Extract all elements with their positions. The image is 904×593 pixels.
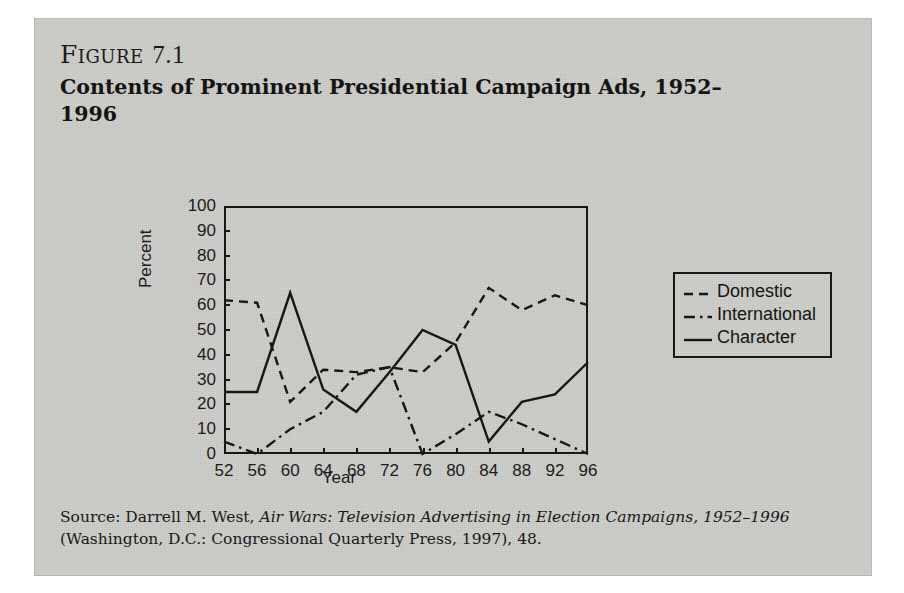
source-prefix: Source: Darrell M. West, xyxy=(60,508,259,526)
source-note: Source: Darrell M. West, Air Wars: Telev… xyxy=(60,506,850,550)
x-tick-label: 92 xyxy=(545,461,564,481)
figure-page: Figure 7.1 Contents of Prominent Preside… xyxy=(34,18,872,576)
x-tick-label: 52 xyxy=(215,461,234,481)
y-axis-label: Percent xyxy=(136,229,156,288)
x-tick-label: 88 xyxy=(512,461,531,481)
x-tick-label: 84 xyxy=(479,461,498,481)
y-tick-label: 60 xyxy=(197,295,224,315)
y-tick-label: 20 xyxy=(197,394,224,414)
x-tick-label: 76 xyxy=(413,461,432,481)
y-tick-label: 30 xyxy=(197,370,224,390)
legend-label: Character xyxy=(717,327,796,348)
figure-number: 7.1 xyxy=(152,41,185,68)
legend-label: International xyxy=(717,304,816,325)
figure-label-word: Figure xyxy=(60,40,144,69)
y-tick-label: 50 xyxy=(197,320,224,340)
source-suffix: (Washington, D.C.: Congressional Quarter… xyxy=(60,530,542,548)
source-book-title: Air Wars: Television Advertising in Elec… xyxy=(259,508,789,526)
legend-item-character[interactable]: Character xyxy=(683,326,816,349)
x-axis-label: Year xyxy=(144,468,534,488)
y-tick-label: 70 xyxy=(197,270,224,290)
series-lines xyxy=(224,206,588,454)
figure-label: Figure 7.1 xyxy=(60,40,185,69)
x-tick-label: 60 xyxy=(281,461,300,481)
plot-area: 0102030405060708090100 52566064687276808… xyxy=(224,206,588,454)
y-tick-label: 10 xyxy=(197,419,224,439)
x-tick-label: 56 xyxy=(248,461,267,481)
legend-swatch-solid-icon xyxy=(683,332,713,344)
legend-item-international[interactable]: International xyxy=(683,303,816,326)
legend-swatch-dashed-icon xyxy=(683,286,713,298)
x-tick-label: 80 xyxy=(446,461,465,481)
series-line-domestic xyxy=(224,288,588,402)
legend-item-domestic[interactable]: Domestic xyxy=(683,280,816,303)
series-line-international xyxy=(224,367,588,454)
x-tick-label: 72 xyxy=(380,461,399,481)
x-tick-label: 96 xyxy=(579,461,598,481)
y-tick-label: 40 xyxy=(197,345,224,365)
y-tick-label: 90 xyxy=(197,221,224,241)
x-tick-label: 64 xyxy=(314,461,333,481)
chart-legend: DomesticInternationalCharacter xyxy=(673,272,832,358)
line-chart: Percent Year 0102030405060708090100 5256… xyxy=(144,168,644,498)
y-tick-label: 80 xyxy=(197,246,224,266)
y-tick-label: 100 xyxy=(188,196,224,216)
legend-swatch-dash-dot-icon xyxy=(683,309,713,321)
figure-title: Contents of Prominent Presidential Campa… xyxy=(60,74,760,128)
x-tick-label: 68 xyxy=(347,461,366,481)
series-line-character xyxy=(224,293,588,442)
legend-label: Domestic xyxy=(717,281,792,302)
